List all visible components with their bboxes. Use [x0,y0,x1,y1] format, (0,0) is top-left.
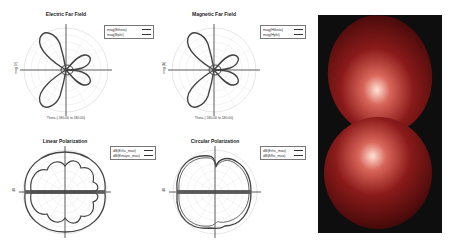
linear-polar-grid [19,146,111,238]
electric-polar-grid [20,24,112,116]
magnetic-polar-grid [168,24,260,116]
circular-polar-grid [169,146,261,238]
3d-surface-graphic [318,15,442,233]
3d-radiation-pattern-render [318,15,442,233]
polar-plots-graphics [0,0,318,248]
